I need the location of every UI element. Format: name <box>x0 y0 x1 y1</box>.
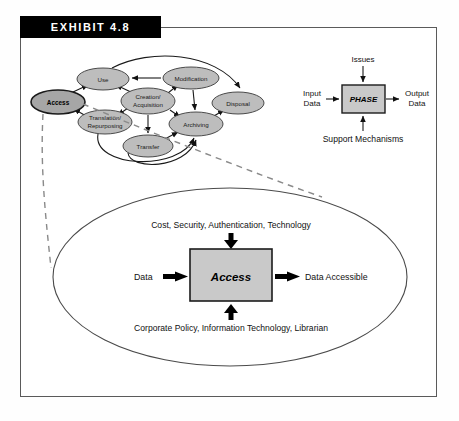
phase-output-label-line1: Output <box>405 89 430 98</box>
access-bottom-label: Corporate Policy, Information Technology… <box>134 323 328 333</box>
lifecycle-node-access[interactable]: Access <box>31 90 85 114</box>
lifecycle-label-creation-line1: Creation/ <box>135 93 160 100</box>
phase-box-label: PHASE <box>350 95 378 104</box>
phase-input-label-line2: Data <box>304 99 321 108</box>
access-output-label: Data Accessible <box>305 272 368 282</box>
lifecycle-label-transfer: Transfer <box>137 143 160 150</box>
lifecycle-label-disposal: Disposal <box>226 100 250 107</box>
lifecycle-node-disposal[interactable]: Disposal <box>212 92 264 114</box>
access-input-label: Data <box>134 272 153 282</box>
lifecycle-label-creation-line2: Acquisition <box>133 101 163 108</box>
access-top-arrow <box>224 233 238 249</box>
lifecycle-label-archiving: Archiving <box>183 121 209 128</box>
lifecycle-label-use: Use <box>97 76 109 83</box>
lifecycle-label-translation-line2: Repurposing <box>87 122 123 129</box>
access-top-label: Cost, Security, Authentication, Technolo… <box>151 220 311 230</box>
exhibit-title: EXHIBIT 4.8 <box>20 16 161 38</box>
lifecycle-node-creation[interactable]: Creation/ Acquisition <box>121 88 175 114</box>
access-input-arrow <box>163 272 188 282</box>
lifecycle-node-use[interactable]: Use <box>77 68 129 90</box>
access-bottom-arrow <box>224 304 238 320</box>
lifecycle-label-modification: Modification <box>174 75 208 82</box>
phase-input-label-line1: Input <box>303 89 322 98</box>
lifecycle-node-modification[interactable]: Modification <box>163 67 219 89</box>
access-box-label: Access <box>210 271 251 283</box>
phase-diagram-group: Issues Input Data PHASE Output Data Supp… <box>303 55 430 144</box>
phase-output-label-line2: Data <box>409 99 426 108</box>
lifecycle-node-archiving[interactable]: Archiving <box>169 112 223 136</box>
phase-bottom-label: Support Mechanisms <box>323 134 404 144</box>
access-detail-group: Cost, Security, Authentication, Technolo… <box>53 188 407 366</box>
exhibit-page: EXHIBIT 4.8 <box>0 0 459 421</box>
exhibit-header-bar: EXHIBIT 4.8 <box>20 16 161 38</box>
access-output-arrow <box>275 272 300 282</box>
phase-top-label: Issues <box>351 55 374 64</box>
diagram-canvas: Use Modification Creation/ Acquisition D… <box>0 0 459 421</box>
lifecycle-label-access: Access <box>47 99 70 106</box>
zoom-link-left <box>42 114 51 268</box>
